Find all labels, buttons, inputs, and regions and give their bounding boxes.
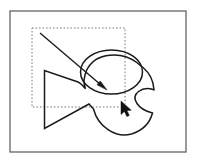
- mouse-pointer: [121, 101, 131, 117]
- vector-scene: [0, 0, 197, 163]
- direction-arrow[interactable]: [40, 33, 107, 90]
- direction-arrow-line: [40, 33, 100, 84]
- fish-body-outline[interactable]: [45, 55, 155, 135]
- selection-marquee[interactable]: [32, 28, 125, 107]
- head-ellipse[interactable]: [81, 50, 143, 94]
- drawing-canvas[interactable]: [0, 0, 197, 163]
